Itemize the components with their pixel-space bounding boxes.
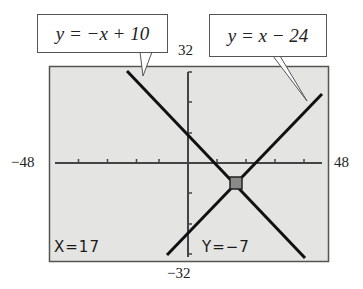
xmax-label: 48: [334, 154, 349, 171]
left-equation-text: y = −x + 10: [56, 23, 149, 45]
xmin-label: −48: [11, 154, 34, 171]
ymin-label: −32: [167, 265, 190, 282]
x-readout: X=17: [54, 238, 100, 256]
intersection-cursor: [230, 177, 242, 189]
ymax-label: 32: [178, 42, 193, 59]
left-equation-callout: y = −x + 10: [37, 14, 168, 53]
y-readout: Y=−7: [202, 238, 250, 256]
right-equation-callout: y = x − 24: [209, 14, 327, 57]
right-equation-text: y = x − 24: [228, 25, 309, 47]
